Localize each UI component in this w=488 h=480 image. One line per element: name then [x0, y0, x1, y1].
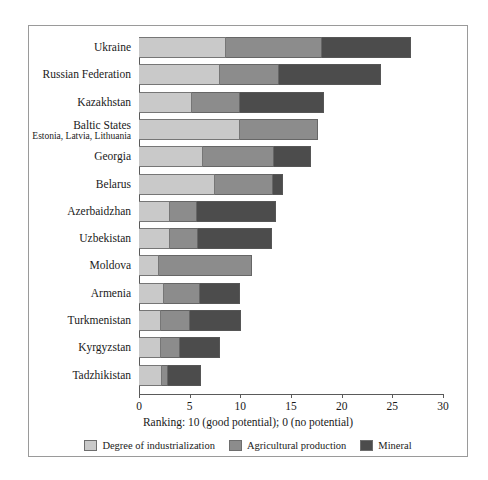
bar-segment-1: [215, 174, 273, 195]
x-tick-label: 5: [170, 400, 210, 412]
category-label-main: Belarus: [96, 178, 131, 190]
category-label-main: Russian Federation: [43, 68, 131, 80]
category-label-sub: Estonia, Latvia, Lithuania: [0, 131, 131, 142]
bar-azerbaidzhan: [139, 201, 276, 222]
x-tick: [342, 394, 343, 398]
category-label-main: Uzbekistan: [79, 232, 131, 244]
legend-swatch-icon: [84, 440, 97, 451]
bar-segment-1: [220, 64, 279, 85]
category-label: Azerbaidzhan: [0, 205, 131, 217]
bar-belarus: [139, 174, 283, 195]
category-label: Russian Federation: [0, 68, 131, 80]
x-axis-title: Ranking: 10 (good potential); 0 (no pote…: [29, 416, 467, 428]
x-tick-label: 0: [119, 400, 159, 412]
chart-figure: UkraineRussian FederationKazakhstanBalti…: [28, 25, 468, 457]
bar-segment-0: [139, 365, 162, 386]
bar-kazakhstan: [139, 92, 324, 113]
bar-segment-1: [170, 228, 197, 249]
bar-segment-2: [197, 201, 276, 222]
category-label: Georgia: [0, 150, 131, 162]
bar-segment-2: [274, 146, 311, 167]
category-label: Turkmenistan: [0, 314, 131, 326]
bar-segment-0: [139, 64, 220, 85]
bar-segment-2: [200, 283, 241, 304]
bar-segment-0: [139, 283, 164, 304]
bar-moldova: [139, 255, 252, 276]
category-label-main: Baltic States: [73, 119, 131, 131]
legend-label: Degree of industrialization: [102, 440, 215, 451]
x-tick-label: 30: [423, 400, 463, 412]
bar-segment-0: [139, 37, 226, 58]
bar-kyrgyzstan: [139, 337, 220, 358]
x-tick: [392, 394, 393, 398]
category-label: Baltic StatesEstonia, Latvia, Lithuania: [0, 119, 131, 142]
bar-segment-1: [192, 92, 241, 113]
x-tick: [443, 394, 444, 398]
category-label: Moldova: [0, 259, 131, 271]
x-tick: [240, 394, 241, 398]
bar-segment-2: [240, 92, 324, 113]
category-label: Uzbekistan: [0, 232, 131, 244]
bar-segment-0: [139, 228, 170, 249]
category-label-main: Armenia: [91, 287, 131, 299]
bar-segment-0: [139, 146, 203, 167]
bar-segment-1: [159, 255, 252, 276]
bar-segment-2: [322, 37, 410, 58]
category-label: Kyrgyzstan: [0, 341, 131, 353]
x-tick-label: 10: [220, 400, 260, 412]
category-label-main: Tadzhikistan: [72, 369, 131, 381]
bar-segment-0: [139, 310, 161, 331]
legend-item-2[interactable]: Mineral: [360, 440, 411, 451]
x-tick: [291, 394, 292, 398]
legend-label: Mineral: [378, 440, 411, 451]
bar-segment-0: [139, 201, 170, 222]
x-tick: [190, 394, 191, 398]
category-label-main: Moldova: [89, 259, 131, 271]
x-tick-label: 15: [271, 400, 311, 412]
category-label: Tadzhikistan: [0, 369, 131, 381]
bar-segment-1: [240, 119, 318, 140]
legend-item-1[interactable]: Agricultural production: [229, 440, 346, 451]
bar-uzbekistan: [139, 228, 272, 249]
category-label-main: Azerbaidzhan: [67, 205, 131, 217]
bar-segment-1: [226, 37, 322, 58]
bar-segment-1: [161, 337, 179, 358]
chart-legend: Degree of industrializationAgricultural …: [29, 440, 467, 451]
x-tick: [139, 394, 140, 398]
x-tick-label: 20: [322, 400, 362, 412]
bar-baltic-states: [139, 119, 318, 140]
category-label-main: Turkmenistan: [68, 314, 131, 326]
category-label-main: Ukraine: [94, 41, 131, 53]
x-tick-label: 25: [372, 400, 412, 412]
bar-segment-0: [139, 174, 215, 195]
legend-item-0[interactable]: Degree of industrialization: [84, 440, 215, 451]
legend-swatch-icon: [360, 440, 373, 451]
category-label: Kazakhstan: [0, 96, 131, 108]
category-label-main: Kyrgyzstan: [78, 341, 131, 353]
bar-georgia: [139, 146, 311, 167]
category-label-main: Georgia: [94, 150, 131, 162]
bar-segment-1: [164, 283, 199, 304]
bar-armenia: [139, 283, 240, 304]
bar-segment-0: [139, 92, 192, 113]
bar-segment-2: [190, 310, 242, 331]
bar-segment-2: [168, 365, 200, 386]
bar-segment-0: [139, 119, 240, 140]
bar-segment-1: [203, 146, 274, 167]
bar-segment-1: [161, 310, 189, 331]
category-label: Belarus: [0, 178, 131, 190]
category-label: Armenia: [0, 287, 131, 299]
bar-segment-2: [198, 228, 272, 249]
bar-turkmenistan: [139, 310, 241, 331]
bar-segment-0: [139, 255, 159, 276]
bar-ukraine: [139, 37, 411, 58]
category-label-main: Kazakhstan: [77, 96, 131, 108]
legend-swatch-icon: [229, 440, 242, 451]
bar-segment-2: [180, 337, 221, 358]
category-label: Ukraine: [0, 41, 131, 53]
bar-tadzhikistan: [139, 365, 201, 386]
bar-segment-2: [279, 64, 381, 85]
bar-segment-1: [170, 201, 196, 222]
legend-label: Agricultural production: [247, 440, 346, 451]
bar-segment-2: [273, 174, 283, 195]
